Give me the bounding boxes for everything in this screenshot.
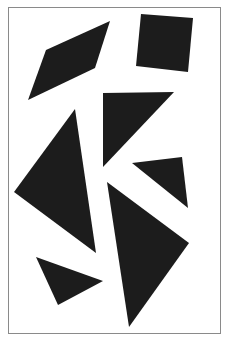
small-right-triangle-shape — [132, 157, 188, 208]
upper-middle-triangle-shape — [103, 92, 174, 167]
square-shape — [136, 14, 193, 72]
tangram-shapes — [0, 0, 232, 344]
tangram-figure — [0, 0, 232, 344]
bottom-left-triangle-shape — [36, 257, 103, 305]
large-left-triangle-shape — [14, 109, 96, 253]
parallelogram-shape — [28, 21, 110, 100]
large-lower-right-triangle-shape — [107, 182, 189, 327]
